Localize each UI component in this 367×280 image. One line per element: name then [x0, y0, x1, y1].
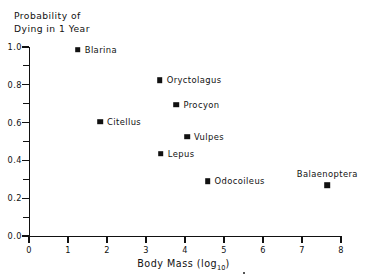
y-tick-minor — [23, 103, 29, 104]
x-tick-label: 3 — [136, 245, 156, 255]
y-tick-label: 0.6 — [0, 118, 22, 128]
scatter-plot-figure: Probability of Dying in 1 Year 0.00.20.4… — [0, 0, 367, 280]
y-tick-minor — [23, 217, 29, 218]
data-point-label: Procyon — [183, 100, 219, 110]
y-tick-major — [22, 84, 29, 85]
x-tick-major — [145, 237, 146, 243]
x-tick-major — [67, 237, 68, 243]
x-tick-label: 6 — [253, 245, 273, 255]
data-point-label: Lepus — [168, 149, 195, 159]
x-tick-major — [28, 237, 29, 243]
data-point-label: Vulpes — [194, 132, 224, 142]
y-tick-major — [22, 122, 29, 123]
x-tick-major — [106, 237, 107, 243]
x-tick-major — [184, 237, 185, 243]
y-axis-line — [29, 47, 30, 237]
x-tick-label: 2 — [97, 245, 117, 255]
data-point-marker — [158, 151, 164, 157]
data-point-marker — [205, 178, 211, 184]
data-point-label: Citellus — [107, 117, 141, 127]
y-tick-label: 1.0 — [0, 42, 22, 52]
data-point-marker — [184, 134, 190, 140]
y-tick-major — [22, 46, 29, 47]
data-point-marker — [174, 102, 180, 108]
x-tick-label: 1 — [58, 245, 78, 255]
x-tick-label: 4 — [175, 245, 195, 255]
y-tick-minor — [23, 141, 29, 142]
data-point-marker — [325, 182, 331, 188]
y-tick-label: 0.2 — [0, 193, 22, 203]
x-axis-title-suffix: ) — [225, 258, 229, 269]
x-tick-label: 7 — [292, 245, 312, 255]
y-tick-major — [22, 198, 29, 199]
x-tick-major — [223, 237, 224, 243]
y-axis-title: Probability of Dying in 1 Year — [14, 10, 90, 35]
y-tick-major — [22, 160, 29, 161]
data-point-marker — [97, 119, 103, 125]
data-point-label: Blarina — [85, 45, 117, 55]
x-axis-title-main: Body Mass (log — [137, 258, 217, 269]
x-tick-major — [340, 237, 341, 243]
y-tick-label: 0.8 — [0, 80, 22, 90]
x-tick-major — [301, 237, 302, 243]
data-point-marker — [75, 47, 81, 53]
data-point-marker — [157, 77, 163, 83]
data-point-label: Balaenoptera — [297, 169, 358, 179]
scan-speck — [243, 272, 245, 274]
data-point-label: Odocoileus — [215, 176, 265, 186]
x-tick-major — [262, 237, 263, 243]
y-tick-label: 0.0 — [0, 231, 22, 241]
x-tick-label: 8 — [331, 245, 351, 255]
x-tick-label: 0 — [19, 245, 39, 255]
y-tick-minor — [23, 65, 29, 66]
y-tick-minor — [23, 179, 29, 180]
y-tick-label: 0.4 — [0, 155, 22, 165]
x-tick-label: 5 — [214, 245, 234, 255]
data-point-label: Oryctolagus — [167, 75, 222, 85]
x-axis-title: Body Mass (log10) — [0, 258, 367, 272]
